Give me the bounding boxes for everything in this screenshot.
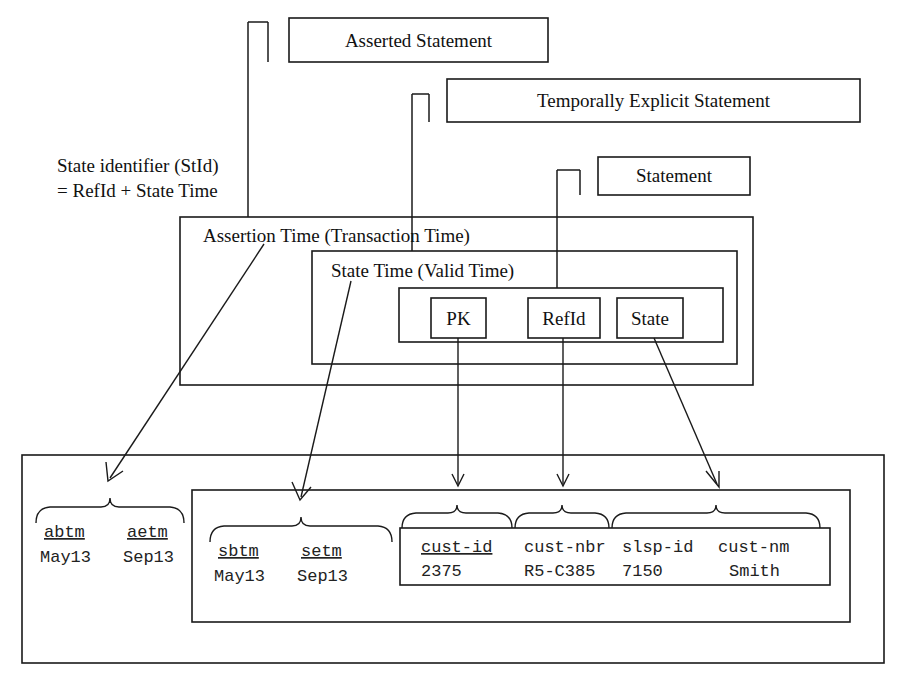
slsp-id-header: slsp-id <box>622 538 693 557</box>
assertion-time-label: Assertion Time (Transaction Time) <box>203 225 470 247</box>
state-time-container[interactable]: State Time (Valid Time) <box>312 251 737 364</box>
arrow-state-time-to-values <box>292 281 351 500</box>
arrow-refid-to-cust-nbr <box>557 338 569 486</box>
aetm-value: Sep13 <box>123 548 174 567</box>
brace-state-time-values <box>210 517 392 542</box>
connector-asserted-statement <box>248 22 268 217</box>
state-identifier-note-line2: = RefId + State Time <box>57 180 218 201</box>
temporal-data-model-diagram: Asserted Statement Temporally Explicit S… <box>0 0 906 687</box>
cust-nbr-value: R5-C385 <box>524 562 595 581</box>
pk-box[interactable]: PK <box>431 298 486 338</box>
connector-statement <box>557 170 580 288</box>
pk-label: PK <box>446 308 471 329</box>
temporally-explicit-statement-box[interactable]: Temporally Explicit Statement <box>447 79 860 122</box>
setm-header: setm <box>301 542 342 561</box>
diagram-canvas: Asserted Statement Temporally Explicit S… <box>0 0 906 687</box>
brace-cust-id <box>402 505 512 528</box>
arrow-state-to-cust-nm <box>654 338 719 487</box>
statement-values-group: cust-id cust-nbr slsp-id cust-nm 2375 R5… <box>421 538 789 581</box>
abtm-header: abtm <box>44 523 85 542</box>
statement-label: Statement <box>636 165 713 186</box>
cust-nm-value: Smith <box>729 562 780 581</box>
assertion-time-values-group: abtm aetm May13 Sep13 <box>40 523 174 567</box>
assertion-time-container[interactable]: Assertion Time (Transaction Time) <box>180 217 753 385</box>
brace-slsp-cust-nm <box>612 505 820 528</box>
refid-label: RefId <box>542 308 586 329</box>
refid-box[interactable]: RefId <box>528 298 600 338</box>
cust-id-value: 2375 <box>421 562 462 581</box>
statement-box[interactable]: Statement <box>598 157 750 195</box>
sbtm-value: May13 <box>214 567 265 586</box>
state-box[interactable]: State <box>617 298 683 338</box>
temporally-explicit-statement-label: Temporally Explicit Statement <box>537 90 771 111</box>
slsp-id-value: 7150 <box>622 562 663 581</box>
cust-nm-header: cust-nm <box>718 538 789 557</box>
state-identifier-note: State identifier (StId) = RefId + State … <box>57 155 218 201</box>
cust-id-header: cust-id <box>421 538 492 557</box>
arrow-assertion-time-to-values <box>106 244 264 481</box>
state-time-values-group: sbtm setm May13 Sep13 <box>214 542 348 586</box>
brace-cust-nbr <box>515 505 609 528</box>
asserted-statement-box[interactable]: Asserted Statement <box>289 18 548 62</box>
arrow-pk-to-cust-id <box>452 338 464 486</box>
cust-nbr-header: cust-nbr <box>524 538 606 557</box>
sbtm-header: sbtm <box>218 542 259 561</box>
state-time-label: State Time (Valid Time) <box>331 260 514 282</box>
asserted-statement-label: Asserted Statement <box>345 30 493 51</box>
brace-assertion-time-values <box>36 498 184 523</box>
setm-value: Sep13 <box>297 567 348 586</box>
state-label: State <box>631 308 669 329</box>
abtm-value: May13 <box>40 548 91 567</box>
state-identifier-note-line1: State identifier (StId) <box>57 155 218 177</box>
aetm-header: aetm <box>127 523 168 542</box>
